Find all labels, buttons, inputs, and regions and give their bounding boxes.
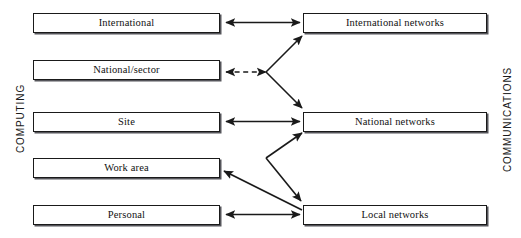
node-national-networks-label: National networks bbox=[355, 117, 435, 128]
connector-upper-junction-to-international-networks bbox=[266, 36, 302, 72]
connector-local-networks-to-work-area bbox=[224, 171, 302, 210]
node-personal-label: Personal bbox=[108, 210, 145, 221]
node-international[interactable]: International bbox=[33, 13, 220, 33]
connector-lower-junction-to-national-networks bbox=[266, 133, 302, 158]
node-personal[interactable]: Personal bbox=[33, 205, 220, 225]
node-international-networks-label: International networks bbox=[346, 18, 444, 29]
node-national-networks[interactable]: National networks bbox=[303, 112, 487, 132]
axis-label-computing: COMPUTING bbox=[15, 77, 26, 161]
connector-upper-junction-to-national-networks bbox=[266, 72, 302, 108]
node-international-label: International bbox=[99, 18, 155, 29]
node-site-label: Site bbox=[118, 117, 135, 128]
node-work-area-label: Work area bbox=[104, 163, 149, 174]
node-national-sector-label: National/sector bbox=[93, 65, 159, 76]
node-local-networks-label: Local networks bbox=[361, 210, 428, 221]
axis-label-communications: COMMUNICATIONS bbox=[502, 59, 513, 181]
node-site[interactable]: Site bbox=[33, 112, 220, 132]
node-work-area[interactable]: Work area bbox=[33, 158, 220, 178]
diagram-canvas: upper junction (dashed) --> Internationa… bbox=[0, 0, 521, 238]
node-national-sector[interactable]: National/sector bbox=[33, 60, 220, 80]
node-local-networks[interactable]: Local networks bbox=[303, 205, 487, 225]
node-international-networks[interactable]: International networks bbox=[303, 13, 487, 33]
